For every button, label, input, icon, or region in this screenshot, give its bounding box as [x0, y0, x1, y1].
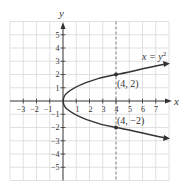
- point-label-lower: (4, −2): [117, 115, 144, 127]
- y-tick-label: −4: [51, 150, 60, 159]
- x-tick-label: 3: [102, 105, 106, 114]
- x-axis-arrow-icon: [165, 99, 172, 104]
- y-tick-label: −1: [51, 110, 60, 119]
- x-tick-label: 1: [76, 105, 80, 114]
- y-tick-label: 4: [56, 44, 60, 53]
- x-axis-label: x: [173, 95, 179, 107]
- y-axis-label: y: [58, 7, 64, 19]
- x-tick-label: 2: [89, 105, 93, 114]
- x-tick-label: 4: [115, 105, 119, 114]
- point-4-neg2: [114, 126, 118, 130]
- y-tick-label: −2: [51, 123, 60, 132]
- equation-main: x = y: [141, 51, 163, 62]
- y-tick-label: 3: [56, 57, 60, 66]
- point-label-upper: (4, 2): [117, 78, 139, 90]
- x-tick-label: −3: [17, 105, 26, 114]
- equation-exponent: 2: [163, 50, 167, 58]
- y-tick-label: 5: [56, 31, 60, 40]
- x-tick-label: 5: [128, 105, 132, 114]
- x-tick-label: −2: [30, 105, 39, 114]
- point-4-2: [114, 73, 118, 77]
- parabola-chart: −3 −2 −1 1 2 3 4 5 6 7 5 4 3 2 1 −1 −2 −…: [0, 0, 186, 187]
- y-tick-label: 1: [56, 84, 60, 93]
- x-tick-labels: −3 −2 −1 1 2 3 4 5 6 7: [17, 105, 158, 114]
- x-tick-label: 6: [141, 105, 145, 114]
- x-tick-label: 7: [154, 105, 158, 114]
- y-axis-arrow-icon: [61, 22, 66, 29]
- y-tick-label: −5: [51, 163, 60, 172]
- equation-label: x = y2: [141, 50, 167, 62]
- y-tick-label: −3: [51, 137, 60, 146]
- y-tick-label: 2: [56, 70, 60, 79]
